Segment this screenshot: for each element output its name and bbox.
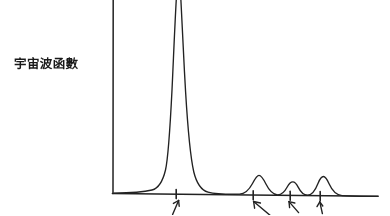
- arrow-1-head-right: [179, 201, 180, 207]
- annotation-arrow-4-icon: [317, 202, 323, 214]
- annotation-arrow-3-icon: [289, 202, 299, 213]
- figure-root: 宇宙波函數: [0, 0, 390, 215]
- arrow-4-head-left: [317, 202, 320, 207]
- arrow-3-head-left: [289, 202, 290, 208]
- annotation-arrow-2-icon: [254, 202, 272, 216]
- annotation-arrow-1-icon: [173, 201, 180, 215]
- wave-function-plot: [0, 0, 390, 215]
- annotation-arrow-group: [173, 201, 323, 216]
- wave-function-curve: [114, 0, 378, 196]
- arrow-2-head-left: [254, 202, 255, 209]
- arrow-2-shaft: [254, 202, 272, 216]
